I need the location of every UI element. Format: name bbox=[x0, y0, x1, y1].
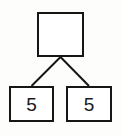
part-left-box[interactable]: 5 bbox=[9, 86, 54, 122]
whole-box[interactable] bbox=[37, 12, 84, 57]
connector-line-whole-to-right-part bbox=[61, 57, 90, 86]
part-right-box[interactable]: 5 bbox=[66, 86, 112, 122]
part-left-box-value: 5 bbox=[26, 95, 37, 114]
part-right-box-value: 5 bbox=[84, 95, 95, 114]
number-bond-diagram: 5 5 bbox=[0, 0, 122, 136]
connector-line-whole-to-left-part bbox=[32, 57, 61, 86]
